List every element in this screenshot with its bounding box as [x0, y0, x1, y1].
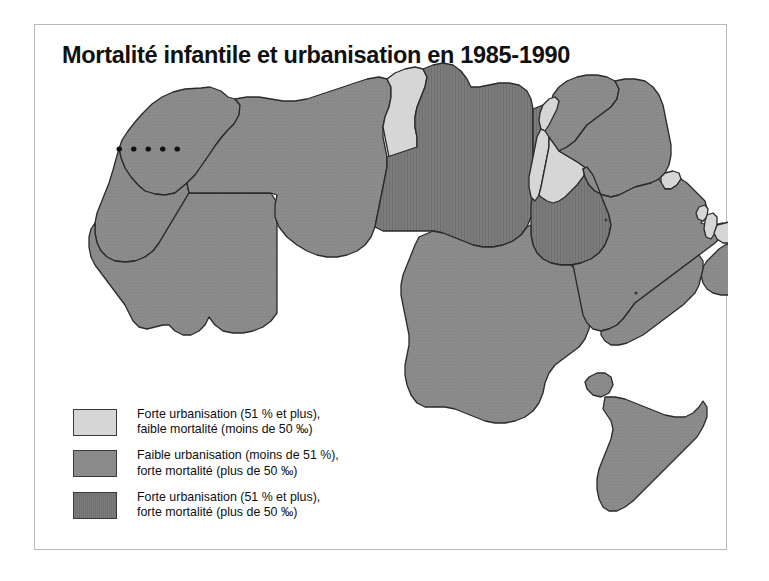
legend-label: Faible urbanisation (moins de 51 %), for…	[137, 448, 339, 478]
legend-item[interactable]: Forte urbanisation (51 % et plus), forte…	[73, 490, 413, 520]
legend-swatch-light	[73, 409, 117, 436]
figure-frame: Mortalité infantile et urbanisation en 1…	[34, 24, 727, 550]
map-legend: Forte urbanisation (51 % et plus), faibl…	[73, 407, 413, 531]
country-somalie[interactable]	[597, 397, 707, 511]
legend-item[interactable]: Faible urbanisation (moins de 51 %), for…	[73, 448, 413, 478]
legend-label: Forte urbanisation (51 % et plus), forte…	[137, 490, 320, 520]
map-dot-marker	[634, 291, 637, 294]
country-djibouti[interactable]	[585, 373, 613, 397]
legend-label: Forte urbanisation (51 % et plus), faibl…	[137, 407, 320, 437]
legend-item[interactable]: Forte urbanisation (51 % et plus), faibl…	[73, 407, 413, 437]
map-dot-marker	[605, 219, 608, 222]
legend-swatch-dark	[73, 492, 117, 519]
legend-swatch-medium	[73, 450, 117, 477]
